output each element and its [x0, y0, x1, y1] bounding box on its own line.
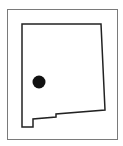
- state-outline-new-mexico: [22, 24, 105, 127]
- locator-map: [0, 0, 123, 146]
- map-container: [0, 0, 123, 146]
- location-marker-dot: [33, 76, 46, 89]
